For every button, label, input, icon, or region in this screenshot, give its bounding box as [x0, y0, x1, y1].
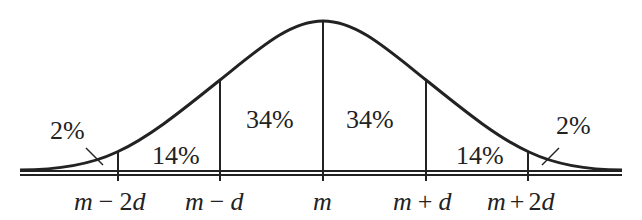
label-m-d-to-m: 34%	[246, 105, 294, 134]
tick-m+d: m+d	[393, 187, 452, 216]
normal-curve-diagram: 2% 14% 34% 34% 14% 2% m−2d m−d m m+d m+2…	[0, 0, 642, 220]
tick-m+2d: m+2d	[487, 187, 555, 216]
tick-m: m	[313, 187, 332, 216]
tick-m-2d: m−2d	[74, 187, 146, 216]
bell-curve	[20, 21, 622, 170]
tick-m-d: m−d	[185, 187, 244, 216]
label-m+d-to-m+2d: 14%	[456, 141, 504, 170]
label-m-to-m+d: 34%	[346, 105, 394, 134]
label-left-tail: 2%	[50, 116, 85, 145]
label-m-2d-to-m-d: 14%	[152, 141, 200, 170]
label-right-tail: 2%	[556, 111, 591, 140]
